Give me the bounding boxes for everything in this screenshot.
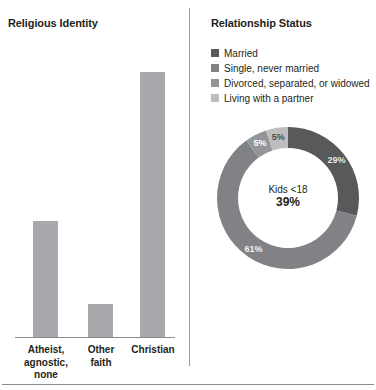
legend-item-divorced-separated-widowed[interactable]: Divorced, separated, or widowed [211,76,370,90]
legend-item-married[interactable]: Married [211,46,370,60]
bar-category-line: Christian [120,344,186,357]
donut-center-value: 39% [215,196,361,209]
legend-swatch-icon [211,64,219,72]
donut-legend: Married Single, never married Divorced, … [211,46,370,106]
legend-item-label: Living with a partner [224,93,314,104]
bar-category-label-other-faith: Other faith [82,344,120,369]
bar-rect[interactable] [33,221,58,337]
page-title-relationship-status: Relationship Status [211,17,312,29]
legend-item-label: Single, never married [224,63,319,74]
legend-swatch-icon [211,79,219,87]
bar-category-line: none [8,369,84,382]
relationship-status-panel: Relationship Status Married Single, neve… [189,0,376,390]
donut-slice-value-label: 5% [254,138,267,148]
legend-swatch-icon [211,94,219,102]
bar-group-christian[interactable]: 64% [140,47,165,337]
bar-category-line: faith [82,357,120,370]
legend-swatch-icon [211,49,219,57]
legend-item-label: Married [224,48,258,59]
donut-center-text: Kids <18 39% [215,183,361,209]
legend-item-single-never-married[interactable]: Single, never married [211,61,370,75]
bar-chart-plot-area: 28% 8% 64% Atheist, agnostic, none Other… [0,0,189,390]
bar-category-line: Atheist, [8,344,84,357]
bar-rect[interactable] [88,304,113,337]
donut-slice-value-label: 29% [328,155,346,165]
religious-identity-panel: Religious Identity 28% 8% 64% Atheist, a… [0,0,189,390]
bar-category-label-christian: Christian [120,344,186,357]
bar-category-label-atheist-agnostic-none: Atheist, agnostic, none [8,344,84,382]
bar-chart-x-axis-line [15,337,175,338]
two-panel-chart-figure: Religious Identity 28% 8% 64% Atheist, a… [0,0,376,390]
legend-item-living-with-partner[interactable]: Living with a partner [211,91,370,105]
bar-category-line: agnostic, [8,357,84,370]
bar-group-atheist-agnostic-none[interactable]: 28% [33,47,58,337]
donut-slice-value-label: 5% [272,132,285,142]
bar-rect[interactable] [140,72,165,337]
bar-category-line: Other [82,344,120,357]
donut-slice-value-label: 61% [244,244,262,254]
bar-group-other-faith[interactable]: 8% [88,47,113,337]
legend-item-label: Divorced, separated, or widowed [224,78,370,89]
donut-chart: 29%61%5%5% Kids <18 39% [215,125,361,271]
